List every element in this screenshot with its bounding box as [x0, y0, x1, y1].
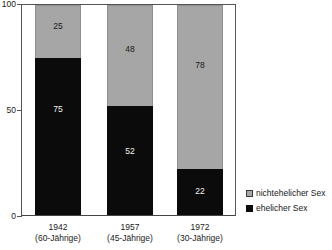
bar-1972-value-nichtehelicher: 78 [195, 61, 204, 70]
bar-1972-value-ehelicher: 22 [195, 187, 204, 196]
bar-1957[interactable]: 48 52 [107, 5, 153, 215]
legend-swatch-gray-icon [246, 190, 253, 197]
legend-item-ehelicher[interactable]: ehelicher Sex [246, 201, 332, 216]
bar-1957-value-nichtehelicher: 48 [125, 45, 134, 54]
bar-1942-value-ehelicher: 75 [53, 105, 62, 114]
bar-1942-segment-nichtehelicher[interactable]: 25 [35, 5, 81, 58]
y-tick-label-100: 100 [0, 0, 16, 9]
bar-1957-value-ehelicher: 52 [125, 147, 134, 156]
bar-1957-segment-ehelicher[interactable]: 52 [107, 106, 153, 215]
y-tick-mark-0 [17, 216, 22, 217]
bars-layer: 25 75 48 52 78 22 [22, 5, 235, 215]
legend-label-ehelicher: ehelicher Sex [256, 204, 308, 213]
legend-swatch-black-icon [246, 205, 253, 212]
bar-1972[interactable]: 78 22 [177, 5, 223, 215]
bar-1942-value-nichtehelicher: 25 [53, 22, 62, 31]
legend: nichtehelicher Sex ehelicher Sex [246, 186, 332, 216]
legend-label-nichtehelicher: nichtehelicher Sex [256, 189, 325, 198]
bar-1942-segment-ehelicher[interactable]: 75 [35, 58, 81, 216]
bar-1942[interactable]: 25 75 [35, 5, 81, 215]
bar-1957-segment-nichtehelicher[interactable]: 48 [107, 5, 153, 106]
y-tick-label-0: 0 [0, 212, 16, 221]
x-axis-label-1972-year: 1972 [155, 222, 245, 233]
legend-item-nichtehelicher[interactable]: nichtehelicher Sex [246, 186, 332, 201]
bar-1972-segment-ehelicher[interactable]: 22 [177, 169, 223, 215]
y-tick-label-50: 50 [0, 106, 16, 115]
stacked-bar-chart: 100 50 0 25 75 48 52 78 22 [0, 0, 332, 250]
x-axis-label-1972-cohort: (30-Jährige) [155, 233, 245, 244]
bar-1972-segment-nichtehelicher[interactable]: 78 [177, 5, 223, 169]
x-axis-label-1972: 1972 (30-Jährige) [155, 222, 245, 244]
